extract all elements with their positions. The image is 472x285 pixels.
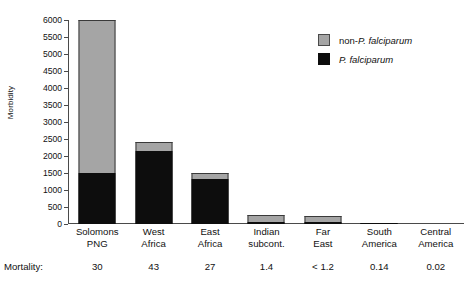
x-axis-label-line: America <box>408 238 464 250</box>
bar-slot <box>182 20 238 224</box>
bar-slot <box>125 20 181 224</box>
y-tick-label: 5000 <box>43 50 62 59</box>
y-tick-mark <box>64 190 68 191</box>
x-axis-label: EastAfrica <box>182 226 238 249</box>
y-tick-label: 2000 <box>43 152 62 161</box>
y-tick-mark <box>64 20 68 21</box>
x-axis-label-line: America <box>351 238 407 250</box>
y-tick-mark <box>64 122 68 123</box>
bar-segment-p-falciparum <box>192 179 229 224</box>
mortality-value: 43 <box>125 261 181 272</box>
y-tick-label: 1000 <box>43 186 62 195</box>
x-axis-label-line: Indian <box>238 226 294 238</box>
x-axis-label: WestAfrica <box>125 226 181 249</box>
y-tick-mark <box>64 156 68 157</box>
x-axis-label-line: East <box>182 226 238 238</box>
mortality-value: 0.02 <box>408 261 464 272</box>
x-axis-label-line: South <box>351 226 407 238</box>
bar-segment-p-falciparum <box>248 222 285 224</box>
x-axis-label-line: Solomons <box>69 226 125 238</box>
y-tick-label: 4000 <box>43 84 62 93</box>
bar-segment-non-p-falciparum <box>135 142 172 151</box>
bar-segment-non-p-falciparum <box>248 215 285 222</box>
bar-slot <box>238 20 294 224</box>
y-tick-mark <box>64 139 68 140</box>
legend: non-P. falciparum P. falciparum <box>318 32 468 70</box>
x-axis-label-line: Africa <box>182 238 238 250</box>
bar-segment-non-p-falciparum <box>79 20 116 173</box>
y-axis-title: Morbidity <box>6 73 15 133</box>
mortality-row-label: Mortality: <box>4 261 43 272</box>
legend-label-p-falciparum: P. falciparum <box>339 54 393 65</box>
y-tick-mark <box>64 207 68 208</box>
y-tick-label: 3000 <box>43 118 62 127</box>
x-axis-label-line: East <box>295 238 351 250</box>
y-tick-label: 0 <box>57 220 62 229</box>
y-tick-label: 4500 <box>43 67 62 76</box>
bar-slot <box>69 20 125 224</box>
y-tick-mark <box>64 54 68 55</box>
y-tick-label: 1500 <box>43 169 62 178</box>
x-axis-label-line: West <box>125 226 181 238</box>
mortality-value: 30 <box>69 261 125 272</box>
x-axis-label: CentralAmerica <box>408 226 464 249</box>
y-tick-mark <box>64 37 68 38</box>
y-tick-mark <box>64 173 68 174</box>
y-tick-mark <box>64 71 68 72</box>
bar-segment-non-p-falciparum <box>304 216 341 223</box>
y-tick-mark <box>64 88 68 89</box>
bar-segment-p-falciparum <box>304 222 341 224</box>
mortality-value: 0.14 <box>351 261 407 272</box>
malaria-morbidity-chart: Morbidity 050010001500200025003000350040… <box>0 0 472 285</box>
gray-swatch-icon <box>318 34 330 46</box>
mortality-value: 27 <box>182 261 238 272</box>
x-axis-label-line: subcont. <box>238 238 294 250</box>
x-axis-label: Indiansubcont. <box>238 226 294 249</box>
legend-item-p-falciparum: P. falciparum <box>318 51 468 67</box>
y-tick-mark <box>64 105 68 106</box>
bar-segment-p-falciparum <box>135 151 172 224</box>
legend-label-non-p-falciparum: non-P. falciparum <box>339 35 412 46</box>
x-axis-label: SouthAmerica <box>351 226 407 249</box>
bar-segment-p-falciparum <box>361 223 398 225</box>
mortality-value: < 1.2 <box>295 261 351 272</box>
y-tick-mark <box>64 224 68 225</box>
bar-segment-p-falciparum <box>79 173 116 224</box>
y-tick-label: 2500 <box>43 135 62 144</box>
x-axis-label-line: Africa <box>125 238 181 250</box>
y-tick-label: 6000 <box>43 16 62 25</box>
mortality-value: 1.4 <box>238 261 294 272</box>
x-axis-label: FarEast <box>295 226 351 249</box>
x-axis-category-labels: SolomonsPNGWestAfricaEastAfricaIndiansub… <box>69 226 464 260</box>
mortality-values-row: 3043271.4< 1.20.140.02 <box>69 261 464 275</box>
x-axis-label-line: PNG <box>69 238 125 250</box>
y-tick-label: 3500 <box>43 101 62 110</box>
y-tick-label: 5500 <box>43 33 62 42</box>
x-axis-label-line: Far <box>295 226 351 238</box>
legend-item-non-p-falciparum: non-P. falciparum <box>318 32 468 48</box>
y-tick-label: 500 <box>48 203 62 212</box>
x-axis-label: SolomonsPNG <box>69 226 125 249</box>
black-swatch-icon <box>318 53 330 65</box>
x-axis-label-line: Central <box>408 226 464 238</box>
